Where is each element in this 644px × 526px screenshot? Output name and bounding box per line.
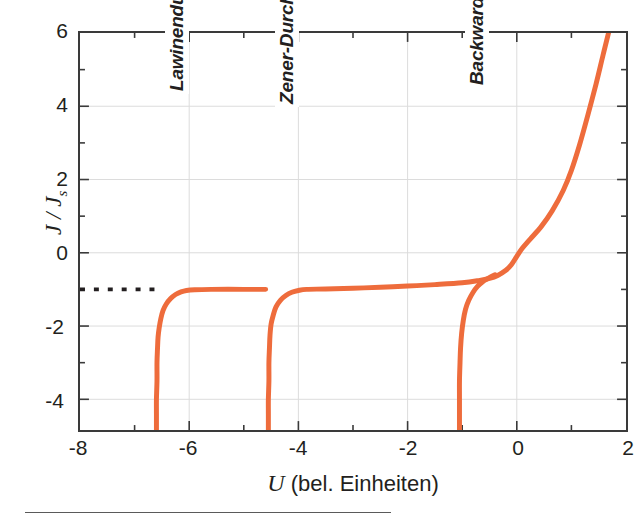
y-tick-label-neg4: -4 bbox=[24, 389, 64, 413]
plot-area: Lawinendurchbruch Zener-Durchbruch Backw… bbox=[78, 31, 628, 432]
x-axis-title-symbol: U bbox=[267, 470, 284, 496]
y-tick-label-6: 6 bbox=[28, 19, 68, 43]
x-tick-label-neg8: -8 bbox=[56, 436, 100, 460]
x-tick-label-0: 0 bbox=[496, 436, 540, 460]
y-axis-title-main: J / J bbox=[41, 197, 66, 235]
x-tick-label-2: 2 bbox=[606, 436, 644, 460]
figure-container: Lawinendurchbruch Zener-Durchbruch Backw… bbox=[0, 0, 644, 526]
x-axis-title-units: (bel. Einheiten) bbox=[285, 471, 439, 496]
x-tick-label-neg2: -2 bbox=[386, 436, 430, 460]
y-axis-title: J / Js bbox=[41, 153, 71, 273]
annotation-backward-diode: Backward-Diode bbox=[465, 0, 489, 88]
y-axis-title-subscript: s bbox=[54, 191, 70, 197]
annotation-layer: Lawinendurchbruch Zener-Durchbruch Backw… bbox=[80, 33, 626, 430]
annotation-lawinendurchbruch: Lawinendurchbruch bbox=[165, 0, 189, 94]
x-axis-title: U (bel. Einheiten) bbox=[78, 470, 628, 497]
bottom-horizontal-rule bbox=[25, 512, 391, 513]
y-tick-label-4: 4 bbox=[28, 93, 68, 117]
x-tick-label-neg4: -4 bbox=[276, 436, 320, 460]
y-tick-label-neg2: -2 bbox=[24, 315, 64, 339]
x-tick-label-neg6: -6 bbox=[166, 436, 210, 460]
annotation-zener-durchbruch: Zener-Durchbruch bbox=[275, 0, 299, 107]
